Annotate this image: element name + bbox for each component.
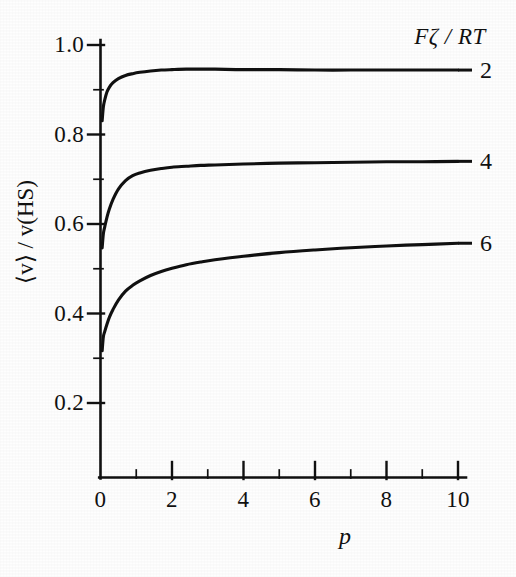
- series-curves-group: [102, 69, 458, 351]
- series-curve: [102, 161, 458, 248]
- series-curve: [102, 243, 458, 351]
- y-tick-label: 1.0: [18, 32, 84, 58]
- x-tick-label: 10: [446, 487, 470, 513]
- figure-root: 0.20.40.60.81.0 0246810 246 ⟨v⟩ / v(HS) …: [0, 0, 516, 577]
- x-tick-label: 0: [95, 487, 107, 513]
- series-curve: [102, 69, 458, 121]
- legend-leader-lines: [458, 70, 472, 243]
- x-tick-label: 4: [238, 487, 250, 513]
- x-tick-label: 8: [381, 487, 393, 513]
- series-label: 4: [480, 148, 492, 175]
- x-tick-label: 2: [166, 487, 178, 513]
- y-tick-label: 0.2: [18, 390, 84, 416]
- x-tick-label: 6: [309, 487, 321, 513]
- y-axis-title: ⟨v⟩ / v(HS): [12, 180, 39, 284]
- x-axis-title: p: [339, 523, 351, 550]
- series-label: 6: [480, 230, 492, 257]
- axes-group: [99, 40, 466, 479]
- legend-title: Fζ / RT: [414, 24, 486, 50]
- chart-canvas: [0, 0, 516, 577]
- y-tick-label: 0.4: [18, 301, 84, 327]
- series-label: 2: [480, 57, 492, 84]
- y-tick-label: 0.8: [18, 122, 84, 148]
